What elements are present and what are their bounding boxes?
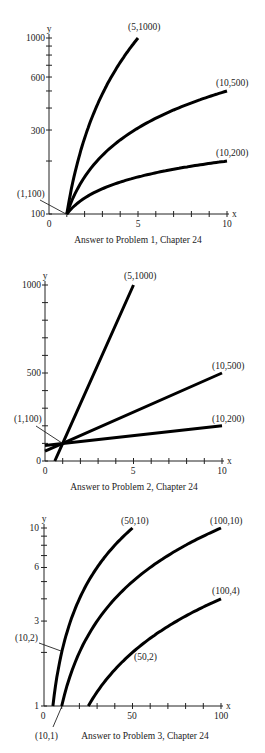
chart-1: y x 0 5 10 1000 600 300 100 (5,1000) (10… [17, 22, 248, 245]
chart-2-x-tick-label: 5 [131, 466, 136, 476]
chart-2-x-axis-label: x [227, 456, 232, 466]
chart-3-point-label: (10,2) [15, 633, 38, 644]
chart-1-caption: Answer to Problem 1, Chapter 24 [74, 235, 202, 245]
chart-3: y x 0 50 100 10 6 3 1 (50,10) (100,10) (… [15, 514, 242, 742]
chart-3-y-tick-label: 6 [34, 562, 39, 572]
chart-3-caption: Answer to Problem 3, Chapter 24 [81, 731, 209, 741]
chart-1-x-tick-label: 10 [222, 219, 232, 229]
chart-3-point-label: (50,10) [121, 516, 149, 527]
chart-1-x-axis-label: x [232, 209, 237, 219]
data-series-line [62, 528, 221, 706]
chart-2-point-label: (10,500) [212, 361, 244, 372]
data-series-line [45, 426, 222, 446]
chart-3-y-tick-label: 1 [34, 701, 39, 711]
data-series-line [55, 285, 134, 461]
chart-3-curves [53, 528, 221, 706]
chart-3-y-tick-label: 10 [30, 523, 40, 533]
chart-1-x-tick-label: 0 [47, 219, 52, 229]
chart-2-y-axis-label: y [43, 271, 48, 281]
chart-2-curves [45, 285, 222, 461]
chart-2-x-tick-label: 0 [43, 466, 48, 476]
chart-3-leader-line [53, 706, 62, 727]
chart-1-y-axis-label: y [47, 24, 52, 34]
chart-2-y-tick-label: 1000 [22, 280, 41, 290]
data-series-line [45, 373, 222, 451]
figure-canvas: y x 0 5 10 1000 600 300 100 (5,1000) (10… [0, 0, 265, 753]
chart-2-y-tick-label: 0 [36, 456, 41, 466]
chart-1-point-label: (5,1000) [128, 22, 160, 33]
chart-2-caption: Answer to Problem 2, Chapter 24 [70, 482, 198, 492]
chart-1-curves [67, 38, 227, 214]
chart-1-y-tick-label: 600 [31, 73, 46, 83]
chart-3-x-tick-label: 100 [214, 711, 229, 721]
chart-3-x-tick-label: 0 [41, 711, 46, 721]
chart-1-point-label: (10,200) [216, 148, 248, 159]
chart-3-x-axis-label: x [226, 701, 231, 711]
chart-2-y-tick-label: 500 [27, 368, 42, 378]
chart-2-point-label: (1,100) [14, 414, 42, 425]
chart-3-point-label: (100,4) [212, 586, 240, 597]
chart-2: y x 0 5 10 1000 500 0 (5,1000) (10,500) … [14, 271, 244, 492]
chart-2-point-label: (5,1000) [124, 271, 156, 282]
chart-1-y-tick-label: 1000 [26, 33, 45, 43]
chart-3-point-label: (50,2) [134, 652, 157, 663]
chart-3-y-tick-label: 3 [34, 616, 39, 626]
chart-3-x-tick-label: 50 [127, 711, 137, 721]
chart-1-point-label: (10,500) [216, 78, 248, 89]
chart-1-y-tick-label: 100 [31, 209, 46, 219]
chart-2-leader-line [36, 426, 62, 443]
chart-3-y-axis-label: y [42, 514, 47, 524]
chart-1-y-tick-label: 300 [31, 126, 46, 136]
chart-1-x-tick-label: 5 [136, 219, 141, 229]
data-series-line [53, 528, 133, 706]
chart-3-point-label: (100,10) [210, 516, 242, 527]
chart-3-point-label: (10,1) [35, 731, 58, 742]
chart-2-x-tick-label: 10 [217, 466, 227, 476]
chart-3-leader-line [39, 643, 61, 651]
chart-2-point-label: (10,200) [212, 414, 244, 425]
chart-1-point-label: (1,100) [17, 189, 45, 200]
